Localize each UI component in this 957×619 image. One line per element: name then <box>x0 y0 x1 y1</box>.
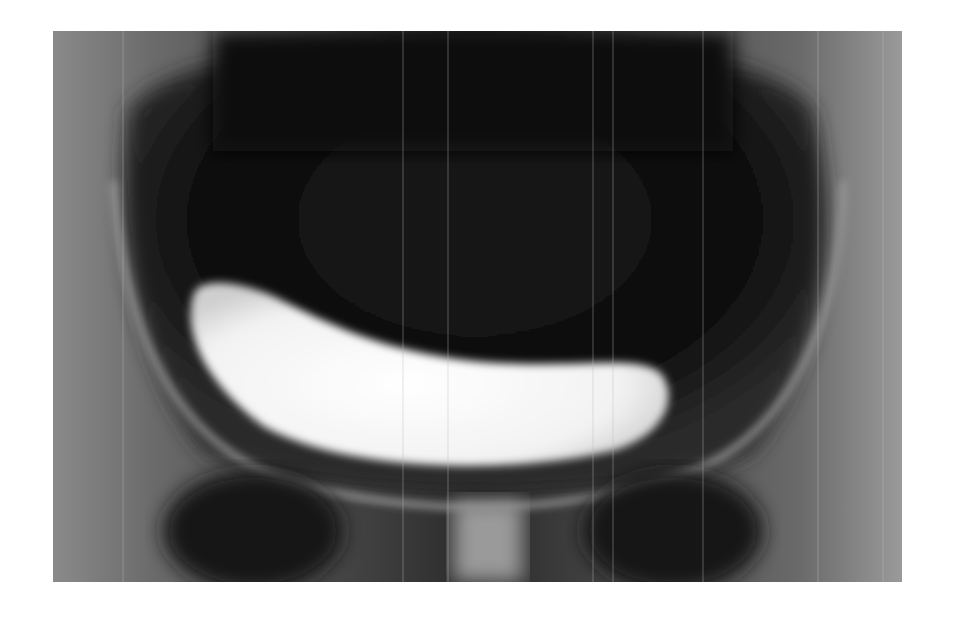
xray-illustration <box>53 31 902 582</box>
pelvic-xray-image <box>53 31 902 582</box>
